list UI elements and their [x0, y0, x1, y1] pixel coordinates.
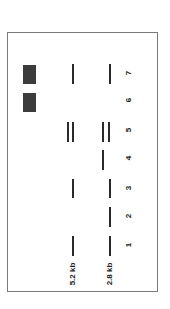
band-lane-1-lower [109, 236, 111, 256]
well-block-lane-6 [23, 93, 36, 112]
band-lane-5-lower-b [108, 122, 110, 142]
lane-label-2: 2 [124, 210, 134, 222]
band-lane-3-lower [109, 179, 111, 198]
lane-label-6: 6 [124, 94, 134, 106]
well-block-lane-7 [23, 65, 36, 84]
size-marker-5-2kb: 5.2 kb [68, 259, 78, 289]
lane-label-4: 4 [124, 152, 134, 164]
band-lane-7-lower [109, 64, 111, 84]
lane-label-1: 1 [124, 239, 134, 251]
band-lane-5-upper-b [72, 122, 74, 142]
band-lane-7-upper [72, 64, 74, 84]
lane-label-5: 5 [124, 124, 134, 136]
band-lane-5-lower-a [102, 122, 104, 142]
band-lane-3-upper [72, 179, 74, 198]
band-lane-4 [102, 150, 104, 170]
lane-label-7: 7 [124, 67, 134, 79]
size-marker-2-8kb: 2.8 kb [105, 259, 115, 289]
band-lane-5-upper-a [67, 122, 69, 142]
band-lane-2 [109, 207, 111, 227]
band-lane-1-upper [72, 236, 74, 256]
lane-label-3: 3 [124, 182, 134, 194]
